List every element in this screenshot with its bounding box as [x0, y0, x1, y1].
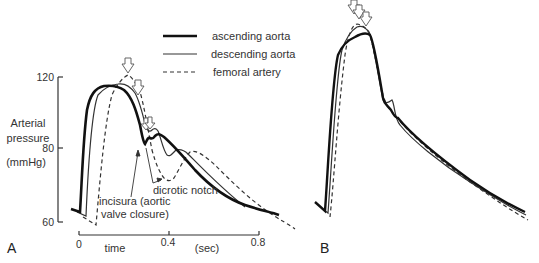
y-axis-label-line1: Arterial [11, 117, 46, 129]
x-axis [79, 231, 259, 235]
dicrotic-arrowhead [157, 178, 162, 182]
panel-a: 120 80 60 Arterial pressure (mmHg) 0 0.4… [6, 30, 296, 256]
panel-a-label: A [7, 240, 17, 256]
dicrotic-pointer-1 [146, 148, 153, 183]
y-axis-label-line3: (mmHg) [6, 156, 46, 168]
panel-b-label: B [320, 240, 329, 256]
x-tick-0-4: 0.4 [161, 236, 176, 248]
peak-arrows-b [348, 0, 372, 26]
y-tick-60: 60 [42, 216, 54, 228]
series-b-ascending-aorta [315, 34, 525, 212]
peak-arrow-femoral [122, 58, 134, 73]
legend-label-ascending: ascending aorta [212, 30, 291, 42]
incisura-arrowhead [136, 150, 140, 156]
y-tick-120: 120 [36, 71, 54, 83]
y-axis [58, 77, 63, 222]
annotation-incisura-line1: incisura (aortic [99, 195, 171, 207]
x-tick-0: 0 [76, 238, 82, 250]
x-axis-unit: (sec) [195, 242, 219, 254]
y-axis-label-line2: pressure [7, 132, 50, 144]
figure: 120 80 60 Arterial pressure (mmHg) 0 0.4… [0, 0, 539, 263]
legend: ascending aorta descending aorta femoral… [163, 30, 296, 78]
legend-label-femoral: femoral artery [213, 66, 281, 78]
series-b-descending-aorta [324, 26, 526, 215]
x-axis-label: time [105, 242, 126, 254]
annotation-incisura-line2: valve closure) [101, 208, 169, 220]
incisura-pointer [131, 152, 138, 197]
panel-b: B [315, 0, 528, 256]
x-tick-0-8: 0.8 [251, 236, 266, 248]
series-b-femoral-artery [330, 24, 528, 220]
legend-label-descending: descending aorta [211, 48, 296, 60]
peak-arrow-descending [132, 80, 144, 95]
